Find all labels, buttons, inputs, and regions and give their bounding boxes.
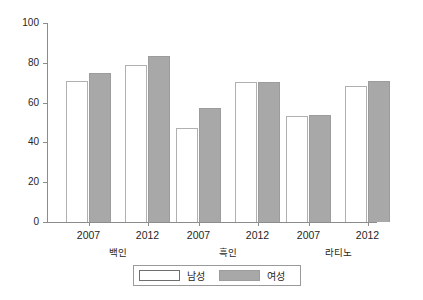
y-tick-label-80: 80	[7, 58, 39, 68]
legend-label-female: 여성	[267, 268, 285, 283]
x-tick-mark-5	[368, 222, 369, 226]
bar-male-heugin-2012	[235, 82, 257, 222]
bar-male-baekin-2012	[125, 65, 147, 222]
y-tick-mark-40	[43, 142, 47, 143]
x-label-year-1: 2012	[123, 229, 173, 241]
x-label-year-4: 2007	[284, 229, 334, 241]
x-label-year-0: 2007	[64, 229, 114, 241]
bar-female-latino-2012	[368, 81, 390, 222]
bar-chart: 보고된 인터넷 접속률 100 80 60 40 20 0	[0, 0, 423, 300]
y-axis-line	[47, 23, 48, 222]
y-tick-mark-0	[43, 222, 47, 223]
y-tick-label-40: 40	[7, 137, 39, 147]
x-label-group-heugin: 흑인	[188, 245, 268, 259]
x-tick-mark-3	[258, 222, 259, 226]
bar-male-latino-2012	[345, 86, 367, 222]
x-label-group-latino: 라티노	[298, 245, 378, 259]
bar-female-latino-2007	[309, 115, 331, 222]
y-tick-mark-80	[43, 63, 47, 64]
legend-item-female: 여성	[219, 266, 285, 285]
bar-male-baekin-2007	[66, 81, 88, 222]
bar-male-heugin-2007	[176, 128, 198, 222]
y-tick-label-20: 20	[7, 177, 39, 187]
x-tick-mark-0	[89, 222, 90, 226]
y-tick-mark-100	[43, 23, 47, 24]
x-tick-mark-2	[199, 222, 200, 226]
legend-swatch-female-icon	[219, 270, 260, 281]
legend-swatch-male-icon	[139, 270, 180, 281]
x-tick-mark-1	[148, 222, 149, 226]
y-tick-mark-60	[43, 103, 47, 104]
bar-female-baekin-2007	[89, 73, 111, 222]
x-label-year-3: 2012	[233, 229, 283, 241]
y-tick-label-0: 0	[7, 217, 39, 227]
legend-label-male: 남성	[187, 268, 205, 283]
x-label-year-5: 2012	[343, 229, 393, 241]
bar-female-heugin-2007	[199, 108, 221, 222]
legend-item-male: 남성	[139, 266, 205, 285]
y-tick-mark-20	[43, 182, 47, 183]
chart-legend: 남성 여성	[133, 265, 301, 286]
x-axis-line	[47, 222, 377, 223]
x-label-group-baekin: 백인	[78, 245, 158, 259]
x-label-year-2: 2007	[174, 229, 224, 241]
bar-male-latino-2007	[286, 116, 308, 222]
bar-female-heugin-2012	[258, 82, 280, 222]
x-tick-mark-4	[309, 222, 310, 226]
y-tick-label-60: 60	[7, 98, 39, 108]
plot-area: 100 80 60 40 20 0	[47, 23, 377, 222]
bar-female-baekin-2012	[148, 56, 170, 222]
y-tick-label-100: 100	[7, 18, 39, 28]
